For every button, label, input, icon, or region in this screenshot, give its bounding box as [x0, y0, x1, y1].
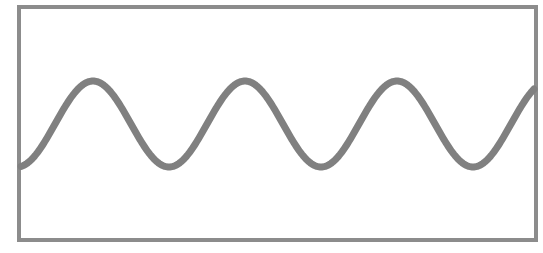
frame-border [19, 7, 536, 240]
sine-wave-curve [21, 81, 534, 167]
sine-wave-diagram [0, 0, 543, 253]
